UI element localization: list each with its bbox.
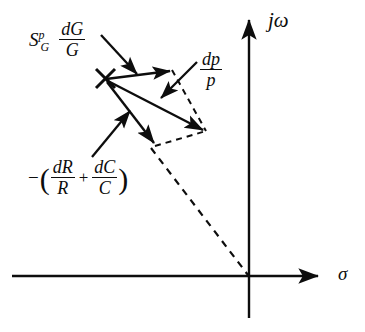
dC-numerator: dC [92,158,117,178]
dashed-construction-group [151,70,248,275]
minus-dR-dC-label: − ( dR R + dC C ) [28,158,128,197]
sensitivity-symbol-group: SpG [29,30,53,49]
figure-canvas: jω σ SpG dG G dp p − ( dR R [0,0,365,332]
p-denominator: p [200,70,222,89]
real-axis-label-text: σ [338,263,347,284]
leader-dp-over-p [161,62,197,98]
origin-ray-dashed [151,148,248,275]
close-paren: ) [118,167,128,191]
dG-over-G-fraction: dG G [59,20,85,59]
dp-over-p-label: dp p [199,50,223,89]
dR-numerator: dR [51,158,75,178]
plus-sign: + [79,169,89,186]
minus-sign: − [28,168,39,187]
imaginary-axis-label-text: jω [268,8,289,32]
dp-numerator: dp [200,50,222,70]
sensitivity-base-symbol: S [29,29,39,50]
R-denominator: R [51,178,75,197]
vector-minus-dR-dC [107,82,154,143]
sensitivity-label: SpG dG G [29,20,86,59]
dG-numerator: dG [59,20,85,40]
vector-dG-over-G [106,71,170,79]
sensitivity-subscript: G [41,40,50,54]
C-denominator: C [92,178,117,197]
G-denominator: G [59,40,85,59]
leader-sensitivity [101,35,137,74]
dp-over-p-fraction: dp p [200,50,222,89]
dR-over-R-fraction: dR R [51,158,75,197]
real-axis-label: σ [338,264,347,283]
vector-group [106,71,203,143]
dC-over-C-fraction: dC C [92,158,117,197]
leader-minus-dR-dC [92,111,130,157]
closure-lower-dashed [155,131,206,146]
open-paren: ( [40,167,50,191]
imaginary-axis-label: jω [268,10,289,31]
